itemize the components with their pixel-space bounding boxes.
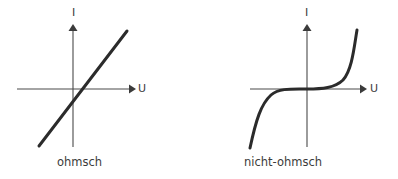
plot-ohmic xyxy=(0,0,199,179)
x-axis-arrow-icon xyxy=(360,85,367,94)
figure-nonohmic: I U nicht-ohmsch xyxy=(199,0,398,179)
x-axis-arrow-icon xyxy=(129,85,136,94)
plot-nonohmic xyxy=(199,0,398,179)
y-axis-arrow-icon xyxy=(69,24,78,31)
y-axis-arrow-icon xyxy=(303,24,312,31)
figure-ohmic: I U ohmsch xyxy=(0,0,199,179)
caption-nonohmic: nicht-ohmsch xyxy=(244,157,322,169)
y-axis-label-current: I xyxy=(72,7,75,18)
caption-ohmic: ohmsch xyxy=(57,157,102,169)
x-axis-label-voltage: U xyxy=(370,83,378,94)
y-axis-label-current: I xyxy=(305,7,308,18)
x-axis-label-voltage: U xyxy=(138,83,146,94)
